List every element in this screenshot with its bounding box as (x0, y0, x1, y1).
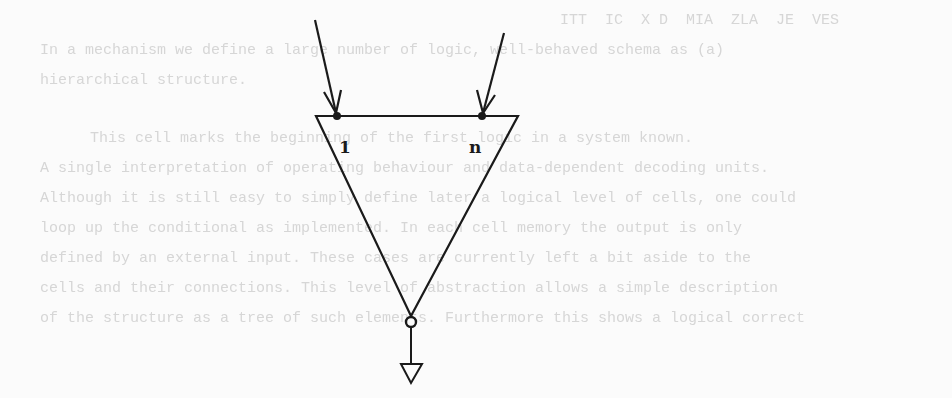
label-input-1: 1 (339, 137, 351, 157)
input-line-n (483, 33, 504, 113)
label-input-n: n (469, 137, 481, 157)
input-line-1 (315, 20, 336, 113)
scanned-page: ITT IC X D MIA ZLA JE VES In a mechanism… (0, 0, 952, 398)
input-dot-n (478, 112, 486, 120)
output-terminal-triangle (401, 364, 422, 383)
input-arrow-1 (315, 20, 341, 113)
input-dot-1 (333, 112, 341, 120)
input-arrow-n (477, 33, 504, 113)
gate-diagram: 1 n (0, 0, 952, 398)
output-inversion-circle (406, 317, 416, 327)
